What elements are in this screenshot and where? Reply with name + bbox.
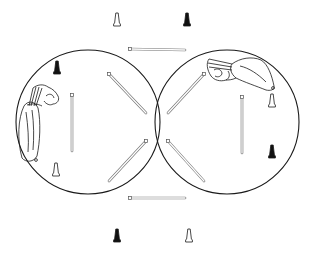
rod-right-upper-diagonal [168, 72, 206, 113]
diagram-canvas [0, 0, 312, 263]
pin-bottom-left-filled-icon [114, 229, 121, 242]
pin-left-arena-filled-icon [54, 61, 61, 74]
right-arm-hand-figure [207, 58, 274, 90]
rod-top-horizontal [128, 47, 185, 50]
left-arm-hand-figure [19, 85, 59, 162]
rod-right-vertical [240, 95, 243, 153]
pin-top-left-outline-icon [114, 13, 121, 26]
rod-bottom-horizontal [128, 196, 185, 199]
rod-left-upper-diagonal [107, 72, 146, 113]
pin-right-arena-filled-icon [269, 145, 276, 158]
rods-group [70, 47, 243, 199]
pin-right-arena-outline-icon [269, 94, 276, 107]
pin-top-right-filled-icon [184, 13, 191, 26]
pin-bottom-right-outline-icon [186, 229, 193, 242]
diagram-svg [0, 0, 312, 263]
rod-left-lower-diagonal [109, 139, 148, 181]
rod-left-vertical [70, 93, 73, 151]
rod-right-lower-diagonal [166, 139, 204, 181]
pin-left-arena-outline-icon [53, 163, 60, 176]
right-arena [155, 50, 299, 194]
left-arena [16, 50, 160, 194]
